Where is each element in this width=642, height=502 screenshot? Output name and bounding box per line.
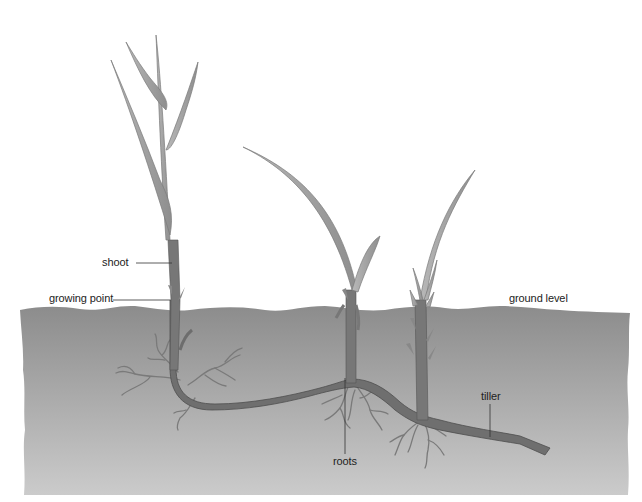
tiller-diagram bbox=[0, 0, 642, 502]
stem-plant-3 bbox=[415, 300, 428, 420]
label-growing-point: growing point bbox=[49, 292, 113, 304]
label-tiller: tiller bbox=[481, 390, 501, 402]
label-roots: roots bbox=[333, 455, 357, 467]
label-shoot: shoot bbox=[102, 256, 128, 268]
leaves-plant-1 bbox=[111, 35, 198, 240]
label-ground-level: ground level bbox=[509, 292, 568, 304]
leaves-plant-2 bbox=[243, 147, 380, 292]
soil bbox=[20, 306, 630, 495]
stem-plant-2 bbox=[346, 290, 356, 383]
leaves-plant-3 bbox=[410, 170, 475, 307]
